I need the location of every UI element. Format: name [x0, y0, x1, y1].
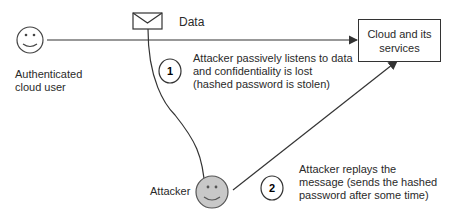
user-label: Authenticated cloud user	[15, 68, 82, 94]
step-2-line: password after some time)	[299, 189, 437, 202]
step-1-line: and confidentiality is lost	[193, 65, 353, 78]
attacker-label: Attacker	[150, 185, 190, 198]
envelope-icon	[133, 13, 162, 29]
step-1-description: Attacker passively listens to data and c…	[193, 52, 353, 91]
step-2-badge: 2	[261, 176, 283, 200]
user-smiley-icon	[17, 27, 43, 53]
svg-text:2: 2	[269, 182, 275, 194]
cloud-services-node: Cloud and its services	[358, 19, 441, 62]
data-label: Data	[179, 16, 204, 29]
svg-text:1: 1	[167, 65, 173, 77]
step-1-badge: 1	[159, 59, 181, 83]
step-1-line: Attacker passively listens to data	[193, 52, 353, 65]
step-2-description: Attacker replays the message (sends the …	[299, 163, 437, 202]
cloud-label-line-2: services	[367, 41, 431, 55]
step-2-line: message (sends the hashed	[299, 176, 437, 189]
cloud-label-line-1: Cloud and its	[367, 27, 431, 41]
step-1-line: (hashed password is stolen)	[193, 78, 353, 91]
step-2-line: Attacker replays the	[299, 163, 437, 176]
user-label-line-2: cloud user	[15, 81, 82, 94]
user-label-line-1: Authenticated	[15, 68, 82, 81]
attacker-smiley-icon	[196, 176, 228, 208]
